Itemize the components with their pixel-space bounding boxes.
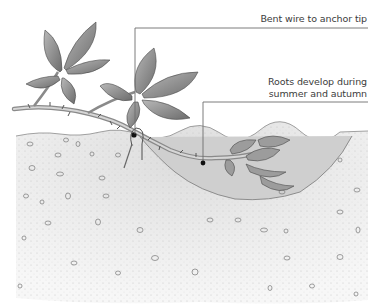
roots-pointer-dot <box>201 161 206 166</box>
illustration <box>0 0 380 308</box>
label-bent-wire-text: Bent wire to anchor tip <box>260 13 367 24</box>
leaf-cluster-middle <box>100 48 198 128</box>
layering-diagram: Bent wire to anchor tip Roots develop du… <box>0 0 380 308</box>
leaf-cluster-upper-left <box>26 22 110 104</box>
label-roots-line1: Roots develop during <box>268 76 367 88</box>
label-roots-line2: summer and autumn <box>268 88 367 100</box>
label-roots-develop: Roots develop during summer and autumn <box>268 76 367 100</box>
label-bent-wire: Bent wire to anchor tip <box>260 13 367 25</box>
